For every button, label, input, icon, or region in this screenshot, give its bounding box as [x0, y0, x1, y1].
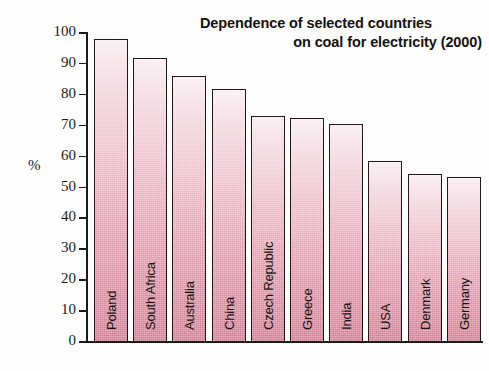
bar[interactable] — [368, 161, 402, 342]
bar-group[interactable]: Australia — [172, 76, 206, 342]
y-axis-tick-mark — [79, 125, 87, 127]
bar[interactable] — [447, 177, 481, 342]
y-axis-tick-mark — [79, 310, 87, 312]
chart-page: Dependence of selected countries on coal… — [0, 0, 489, 371]
plot-area: PolandSouth AfricaAustraliaChinaCzech Re… — [88, 33, 483, 342]
y-axis-tick-label: 10 — [14, 301, 76, 318]
y-axis-tick-label: 20 — [14, 270, 76, 287]
y-axis-tick-mark — [79, 341, 87, 343]
bar[interactable] — [94, 39, 128, 342]
bar-group[interactable]: South Africa — [133, 58, 167, 342]
y-axis-tick-mark — [79, 32, 87, 34]
bar-group[interactable]: Denmark — [408, 174, 442, 342]
y-axis-tick-label: 50 — [14, 178, 76, 195]
bar-group[interactable]: Greece — [290, 118, 324, 342]
bar[interactable] — [212, 89, 246, 342]
bar[interactable] — [329, 124, 363, 342]
y-axis-tick-label: 0 — [14, 332, 76, 349]
y-axis-tick-mark — [79, 248, 87, 250]
y-axis-tick-mark — [79, 63, 87, 65]
y-axis-tick-label: 70 — [14, 116, 76, 133]
bar-group[interactable]: Czech Republic — [251, 116, 285, 342]
bar-group[interactable]: Poland — [94, 39, 128, 342]
bar[interactable] — [251, 116, 285, 342]
y-axis-tick-label: 40 — [14, 208, 76, 225]
bar-group[interactable]: Germany — [447, 177, 481, 342]
y-axis-tick-mark — [79, 94, 87, 96]
chart-title-line-1: Dependence of selected countries — [148, 14, 484, 33]
bar-group[interactable]: India — [329, 124, 363, 342]
bar[interactable] — [290, 118, 324, 342]
bar[interactable] — [172, 76, 206, 342]
y-axis-tick-label: 60 — [14, 147, 76, 164]
y-axis-tick-mark — [79, 279, 87, 281]
y-axis-tick-mark — [79, 217, 87, 219]
bar-group[interactable]: USA — [368, 161, 402, 342]
y-axis-tick-label: 80 — [14, 85, 76, 102]
y-axis-tick-mark — [79, 187, 87, 189]
bar[interactable] — [408, 174, 442, 342]
y-axis-tick-label: 90 — [14, 54, 76, 71]
y-axis-tick-label: 100 — [14, 23, 76, 40]
y-axis-tick-label: 30 — [14, 239, 76, 256]
y-axis-tick-labels: 1009080706050403020100 — [10, 0, 76, 371]
bar-group[interactable]: China — [212, 89, 246, 342]
y-axis-tick-mark — [79, 156, 87, 158]
bar[interactable] — [133, 58, 167, 342]
